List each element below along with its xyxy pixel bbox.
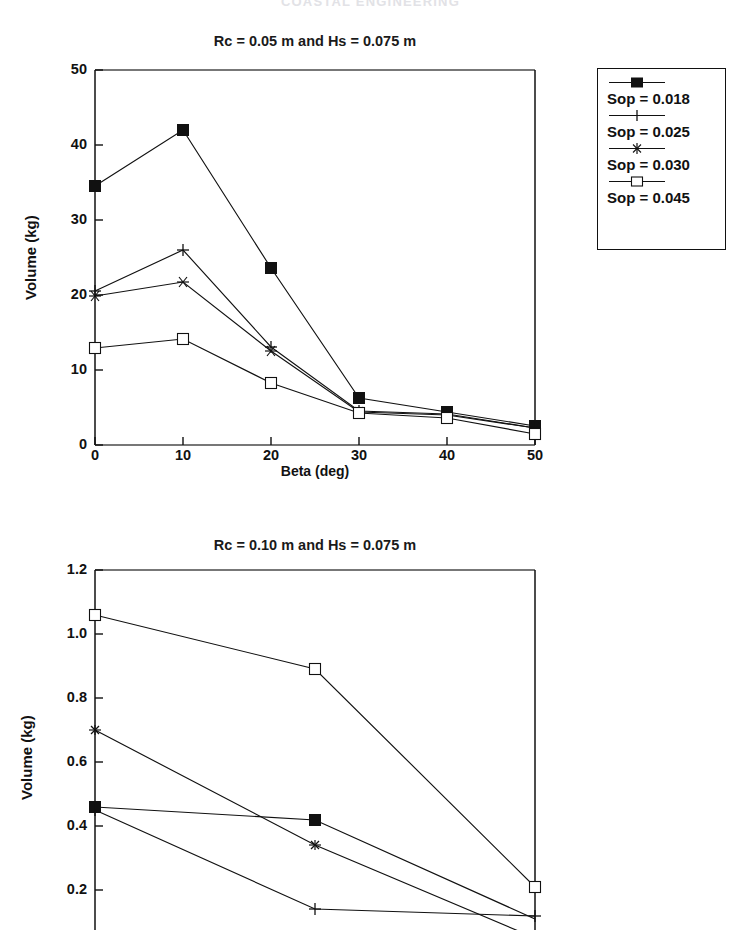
y-tick-label: 0.8 <box>38 689 87 705</box>
y-tick-label: 1.2 <box>38 561 87 577</box>
legend-label: Sop = 0.018 <box>607 89 716 109</box>
open-square-marker <box>607 175 716 188</box>
y-tick-label: 10 <box>45 361 87 377</box>
filled-square-marker <box>607 76 716 89</box>
legend-label: Sop = 0.045 <box>607 188 716 208</box>
plus-marker <box>607 109 716 122</box>
x-tick-label: 50 <box>515 447 555 463</box>
series-sop-0045 <box>90 610 541 893</box>
x-tick-label: 10 <box>163 447 203 463</box>
legend: Sop = 0.018 Sop = 0.025 Sop = 0.030 Sop … <box>597 68 726 250</box>
legend-label: Sop = 0.025 <box>607 122 716 142</box>
y-tick-label: 20 <box>45 286 87 302</box>
y-tick-label: 1.0 <box>38 625 87 641</box>
series-sop-0018 <box>89 124 541 432</box>
series-sop-0018 <box>89 801 535 919</box>
legend-label: Sop = 0.030 <box>607 155 716 175</box>
y-tick-label: 0.6 <box>38 753 87 769</box>
y-tick-label: 30 <box>45 211 87 227</box>
series-sop-0025 <box>89 244 541 434</box>
series-sop-0045 <box>90 334 541 440</box>
x-tick-label: 20 <box>251 447 291 463</box>
figure-rc-010: Rc = 0.10 m and Hs = 0.075 m Volume (kg) <box>0 500 741 930</box>
legend-entry: Sop = 0.045 <box>607 175 716 208</box>
y-tick-label: 0.2 <box>38 881 87 897</box>
y-tick-label: 40 <box>45 136 87 152</box>
figure-rc-005: Rc = 0.05 m and Hs = 0.075 m Volume (kg)… <box>0 0 741 490</box>
legend-entry: Sop = 0.025 <box>607 109 716 142</box>
legend-entry: Sop = 0.018 <box>607 76 716 109</box>
x-tick-label: 30 <box>339 447 379 463</box>
plot-area-2 <box>0 500 741 930</box>
legend-entry: Sop = 0.030 <box>607 142 716 175</box>
series-sop-0030 <box>89 725 535 930</box>
y-tick-label: 0.4 <box>38 817 87 833</box>
x-tick-label: 0 <box>75 447 115 463</box>
x-tick-label: 40 <box>427 447 467 463</box>
y-tick-label: 50 <box>45 61 87 77</box>
asterisk-marker <box>607 142 716 155</box>
series-sop-0030 <box>89 277 541 433</box>
